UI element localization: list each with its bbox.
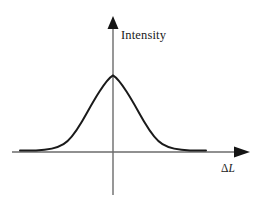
intensity-profile-figure: Intensity ΔL <box>0 0 263 202</box>
y-axis-arrowhead-icon <box>108 16 119 29</box>
x-axis-arrowhead-icon <box>234 147 250 158</box>
x-axis-label-variable: L <box>228 162 234 174</box>
x-axis-label: ΔL <box>221 163 235 175</box>
y-axis-label: Intensity <box>121 29 166 42</box>
